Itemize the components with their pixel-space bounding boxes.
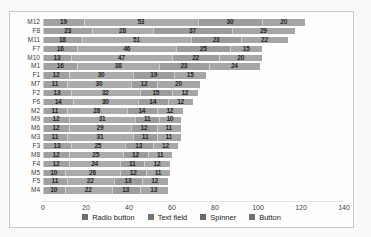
legend: Radio buttonText fieldSpinnerButton xyxy=(10,214,353,222)
bar-row: F313251312 xyxy=(10,142,344,151)
y-axis-label: M1 xyxy=(10,63,43,70)
bar-segment: 10 xyxy=(43,187,65,193)
bar-segment: 19 xyxy=(133,72,174,78)
legend-item: Text field xyxy=(148,214,188,222)
y-axis-label: F2 xyxy=(10,90,43,97)
bar-segment: 22 xyxy=(65,187,112,193)
bar-track: 12251211 xyxy=(43,152,172,158)
bar-segment: 11 xyxy=(120,161,144,167)
bar-segment: 29 xyxy=(69,125,131,131)
bar-segment: 37 xyxy=(153,28,233,34)
bar-row: M410221313 xyxy=(10,186,344,195)
bar-segment: 38 xyxy=(77,63,159,69)
bar-segment: 10 xyxy=(43,170,65,176)
bar-row: M116382324 xyxy=(10,62,344,71)
x-axis: 020406080100120140 xyxy=(43,201,344,212)
legend-swatch-icon xyxy=(148,214,154,220)
bar-segment: 12 xyxy=(144,161,170,167)
bar-track: 11301220 xyxy=(43,81,200,87)
bar-segment: 53 xyxy=(84,19,198,25)
bar-segment: 14 xyxy=(138,99,168,105)
bar-row: M1118512322 xyxy=(10,36,344,45)
legend-label: Radio button xyxy=(92,214,135,222)
bar-segment: 12 xyxy=(43,161,69,167)
bar-track: 18512322 xyxy=(43,37,288,43)
bar-segment: 19 xyxy=(43,19,84,25)
bar-segment: 30 xyxy=(198,19,263,25)
bar-segment: 11 xyxy=(43,108,67,114)
bar-segment: 20 xyxy=(219,55,262,61)
bar-row: F823283729 xyxy=(10,27,344,36)
bar-row: M711301220 xyxy=(10,80,344,89)
bar-segment: 25 xyxy=(71,143,125,149)
bar-segment: 13 xyxy=(43,55,71,61)
bar-segment: 11 xyxy=(146,170,170,176)
bar-segment: 13 xyxy=(114,178,142,184)
x-tick-label: 20 xyxy=(82,204,90,211)
legend-swatch-icon xyxy=(82,214,88,220)
bar-track: 11281412 xyxy=(43,108,183,114)
bar-row: M912311110 xyxy=(10,115,344,124)
y-axis-label: M4 xyxy=(10,187,43,194)
bar-track: 11221312 xyxy=(43,178,168,184)
bar-row: M1219533020 xyxy=(10,18,344,27)
bar-row: M1013472220 xyxy=(10,53,344,62)
y-axis-label: M9 xyxy=(10,116,43,123)
bar-segment: 15 xyxy=(174,72,206,78)
x-tick-label: 80 xyxy=(211,204,219,211)
bar-segment: 12 xyxy=(43,117,69,123)
bar-segment: 12 xyxy=(123,152,149,158)
stacked-bar-chart: M1219533020F823283729M1118512322F7164625… xyxy=(9,11,354,228)
bar-row: F511221312 xyxy=(10,177,344,186)
bar-segment: 20 xyxy=(262,19,305,25)
bar-segment: 11 xyxy=(43,178,67,184)
y-axis-label: M12 xyxy=(10,19,43,26)
bar-segment: 22 xyxy=(172,55,219,61)
bar-segment: 12 xyxy=(43,72,69,78)
bar-segment: 20 xyxy=(157,81,200,87)
y-axis-label: F5 xyxy=(10,178,43,185)
bar-segment: 13 xyxy=(125,143,153,149)
bar-segment: 32 xyxy=(71,90,140,96)
bar-track: 12291211 xyxy=(43,125,181,131)
y-axis-label: F6 xyxy=(10,99,43,106)
legend-swatch-icon xyxy=(200,214,206,220)
bar-segment: 23 xyxy=(43,28,92,34)
bar-track: 13251312 xyxy=(43,143,178,149)
y-axis-label: M5 xyxy=(10,170,43,177)
bar-segment: 25 xyxy=(69,152,123,158)
bar-segment: 16 xyxy=(43,46,77,52)
bar-segment: 46 xyxy=(77,46,176,52)
bar-segment: 11 xyxy=(43,134,67,140)
bar-segment: 13 xyxy=(112,187,140,193)
bar-segment: 25 xyxy=(176,46,230,52)
bar-segment: 12 xyxy=(157,108,183,114)
bar-segment: 15 xyxy=(230,46,262,52)
y-axis-label: M10 xyxy=(10,55,43,62)
bar-segment: 16 xyxy=(43,63,77,69)
legend-label: Button xyxy=(259,214,281,222)
bar-segment: 13 xyxy=(140,187,168,193)
y-axis-label: M8 xyxy=(10,152,43,159)
bar-segment: 14 xyxy=(127,108,157,114)
legend-label: Text field xyxy=(158,214,188,222)
bar-segment: 47 xyxy=(71,55,172,61)
legend-item: Button xyxy=(249,214,281,222)
bar-segment: 12 xyxy=(142,178,168,184)
bar-track: 23283729 xyxy=(43,28,295,34)
bar-segment: 11 xyxy=(157,125,181,131)
y-axis-label: F7 xyxy=(10,46,43,53)
y-axis-label: M2 xyxy=(10,108,43,115)
bar-segment: 12 xyxy=(43,152,69,158)
bar-segment: 11 xyxy=(43,81,67,87)
bar-track: 13472220 xyxy=(43,55,262,61)
bar-segment: 30 xyxy=(73,99,138,105)
bar-track: 12311110 xyxy=(43,117,181,123)
bar-segment: 15 xyxy=(140,90,172,96)
bar-row: F112301915 xyxy=(10,71,344,80)
bar-row: F614301412 xyxy=(10,98,344,107)
bar-segment: 29 xyxy=(232,28,294,34)
bar-segment: 13 xyxy=(43,143,71,149)
bar-segment: 51 xyxy=(82,37,192,43)
y-axis-label: F8 xyxy=(10,28,43,35)
